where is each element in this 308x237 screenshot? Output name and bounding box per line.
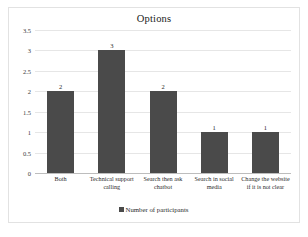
chart-title: Options — [9, 13, 299, 24]
x-axis-category-labels: BothTechnical support callingSearch then… — [35, 175, 291, 190]
y-axis-tick-label: 1 — [28, 129, 31, 136]
bar-slot: 1 — [240, 30, 291, 173]
y-axis-tick-label: 2.5 — [23, 67, 31, 74]
bar-value-label: 2 — [137, 83, 188, 90]
x-axis-category-label: Technical support calling — [86, 175, 137, 190]
y-axis-tick-label: 3 — [28, 47, 31, 54]
x-axis-category-label: Search in social media — [189, 175, 240, 190]
bar[interactable] — [252, 132, 279, 173]
bar[interactable] — [201, 132, 228, 173]
x-axis-category-label: Change the website if it is not clear — [240, 175, 291, 190]
bar[interactable] — [150, 91, 177, 173]
bar-slot: 2 — [137, 30, 188, 173]
chart-legend: Number of participants — [9, 206, 299, 213]
y-axis-tick-label: 0.5 — [23, 149, 31, 156]
bar-value-label: 3 — [86, 42, 137, 49]
bar[interactable] — [98, 50, 125, 173]
bar-slot: 2 — [35, 30, 86, 173]
bar-value-label: 2 — [35, 83, 86, 90]
bar[interactable] — [47, 91, 74, 173]
legend-label: Number of participants — [125, 206, 188, 213]
y-axis-tick-label: 0 — [28, 170, 31, 177]
bars-group: 23211 — [35, 30, 291, 173]
gridline — [35, 173, 291, 174]
plot-area: 00.511.522.533.5 23211 — [35, 30, 291, 173]
y-axis-tick-label: 3.5 — [23, 27, 31, 34]
bar-slot: 3 — [86, 30, 137, 173]
bar-value-label: 1 — [240, 124, 291, 131]
x-axis-category-label: Both — [35, 175, 86, 190]
bar-value-label: 1 — [189, 124, 240, 131]
chart-container: Options 00.511.522.533.5 23211 BothTechn… — [8, 7, 300, 223]
y-axis-tick-label: 2 — [28, 88, 31, 95]
y-axis-tick-label: 1.5 — [23, 108, 31, 115]
square-marker-icon — [119, 207, 124, 212]
bar-slot: 1 — [189, 30, 240, 173]
x-axis-category-label: Search then ask chatbot — [137, 175, 188, 190]
